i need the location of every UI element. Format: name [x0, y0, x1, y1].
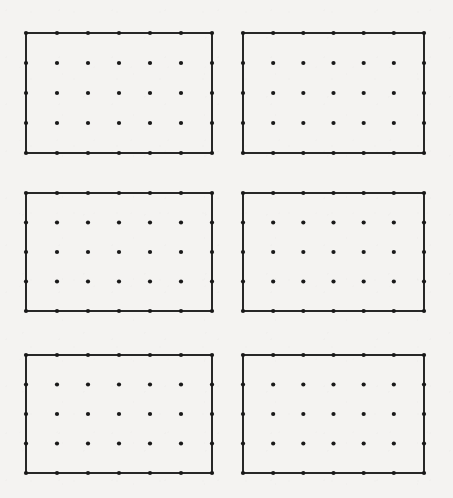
- grid-dot: [362, 309, 366, 313]
- grid-dot: [422, 191, 426, 195]
- grid-dot: [117, 191, 121, 195]
- grid-dot: [148, 91, 152, 95]
- grid-dot: [301, 309, 305, 313]
- grid-dot: [210, 31, 214, 35]
- grid-dot: [117, 279, 121, 283]
- grid-dot: [362, 279, 366, 283]
- grid-dot: [392, 151, 396, 155]
- grid-dot: [148, 61, 152, 65]
- grid-dot: [392, 471, 396, 475]
- grid-dot: [331, 441, 335, 445]
- grid-dot: [117, 441, 121, 445]
- grid-dot: [210, 191, 214, 195]
- panel-plot-area: [20, 349, 218, 479]
- grid-dot: [241, 91, 245, 95]
- grid-dot: [117, 91, 121, 95]
- grid-dot: [301, 353, 305, 357]
- grid-dot: [24, 250, 28, 254]
- grid-dot: [210, 309, 214, 313]
- grid-dot: [179, 279, 183, 283]
- grid-dot: [362, 250, 366, 254]
- grid-dot: [148, 309, 152, 313]
- grid-dot: [362, 382, 366, 386]
- grid-dot: [55, 353, 59, 357]
- grid-dot: [55, 382, 59, 386]
- grid-dot: [148, 151, 152, 155]
- grid-dot: [179, 220, 183, 224]
- grid-dot: [362, 220, 366, 224]
- grid-dot: [117, 31, 121, 35]
- grid-dot: [301, 250, 305, 254]
- grid-dot: [148, 441, 152, 445]
- grid-dot: [148, 412, 152, 416]
- grid-dot: [55, 61, 59, 65]
- grid-dot: [55, 471, 59, 475]
- dot-grid-panel: [20, 349, 218, 479]
- grid-dot: [179, 309, 183, 313]
- grid-dot: [271, 61, 275, 65]
- grid-dot: [86, 220, 90, 224]
- grid-dot: [179, 382, 183, 386]
- grid-dot: [241, 61, 245, 65]
- grid-dot: [117, 61, 121, 65]
- grid-dot: [179, 61, 183, 65]
- grid-dot: [241, 220, 245, 224]
- grid-dot: [241, 309, 245, 313]
- grid-dot: [117, 220, 121, 224]
- grid-dot: [392, 191, 396, 195]
- panel-plot-area: [237, 27, 430, 159]
- grid-dot: [86, 471, 90, 475]
- figure-root: [0, 0, 453, 498]
- grid-dot: [55, 121, 59, 125]
- grid-dot: [392, 250, 396, 254]
- grid-dot: [271, 250, 275, 254]
- grid-dot: [271, 191, 275, 195]
- grid-dot: [301, 441, 305, 445]
- grid-dot: [179, 151, 183, 155]
- grid-dot: [55, 151, 59, 155]
- grid-dot: [301, 191, 305, 195]
- grid-dot: [301, 121, 305, 125]
- grid-dot: [271, 31, 275, 35]
- grid-dot: [24, 412, 28, 416]
- grid-dot: [117, 121, 121, 125]
- grid-dot: [210, 61, 214, 65]
- grid-dot: [241, 250, 245, 254]
- grid-dot: [55, 309, 59, 313]
- grid-dot: [362, 353, 366, 357]
- grid-dot: [301, 382, 305, 386]
- grid-dot: [331, 471, 335, 475]
- grid-dot: [210, 353, 214, 357]
- grid-dot: [362, 412, 366, 416]
- grid-dot: [422, 309, 426, 313]
- grid-dot: [362, 91, 366, 95]
- grid-dot: [362, 121, 366, 125]
- grid-dot: [241, 121, 245, 125]
- grid-dot: [179, 250, 183, 254]
- grid-dot: [210, 220, 214, 224]
- grid-dot: [148, 353, 152, 357]
- grid-dot: [331, 353, 335, 357]
- grid-dot: [55, 220, 59, 224]
- grid-dot: [86, 31, 90, 35]
- grid-dot: [392, 61, 396, 65]
- grid-dot: [241, 151, 245, 155]
- grid-dot: [55, 441, 59, 445]
- grid-dot: [392, 353, 396, 357]
- grid-dot: [271, 353, 275, 357]
- grid-dot: [148, 250, 152, 254]
- grid-dot: [362, 471, 366, 475]
- grid-dot: [24, 220, 28, 224]
- grid-dot: [179, 471, 183, 475]
- grid-dot: [86, 91, 90, 95]
- grid-dot: [301, 412, 305, 416]
- grid-dot: [117, 382, 121, 386]
- grid-dot: [210, 121, 214, 125]
- grid-dot: [422, 471, 426, 475]
- grid-dot: [55, 191, 59, 195]
- grid-dot: [392, 309, 396, 313]
- grid-dot: [241, 279, 245, 283]
- grid-dot: [24, 191, 28, 195]
- grid-dot: [241, 353, 245, 357]
- grid-dot: [24, 91, 28, 95]
